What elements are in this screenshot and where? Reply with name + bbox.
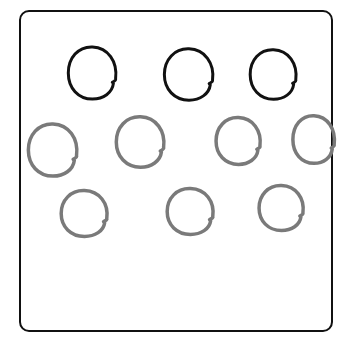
circle-dark-3 [247, 47, 300, 102]
circle-gray-6 [213, 115, 264, 167]
circle-gray-9 [164, 186, 217, 237]
circle-dark-1 [65, 44, 120, 102]
circle-gray-5 [113, 114, 168, 170]
circle-gray-4 [25, 121, 81, 179]
circle-dark-2 [161, 46, 217, 103]
circle-gray-10 [256, 183, 307, 233]
circle-gray-8 [58, 188, 111, 239]
circle-gray-7 [290, 113, 338, 166]
